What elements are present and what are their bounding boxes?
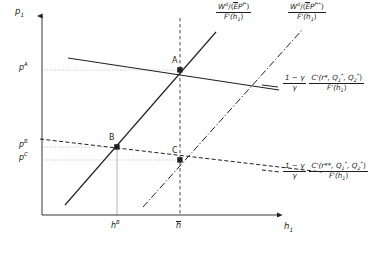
- legend-right-upper-numerator: C'(r*, Q1*, Q2*): [309, 74, 364, 83]
- curve-supply-solid-upward: [65, 32, 216, 205]
- legend-right-upper-prefactor: 1 − γ γ: [283, 74, 306, 93]
- y-tick-pA: pA: [19, 64, 28, 72]
- y-tick-pC: pC: [19, 154, 28, 162]
- leader-upper-cost: [262, 85, 278, 87]
- legend-right-lower-fraction: C'(r**, Q1*, Q2*) F'(h1): [309, 162, 367, 181]
- curve-supply-dashdot-upward: [143, 30, 302, 207]
- x-tick-hbar: h: [176, 222, 181, 230]
- point-marker-C: [177, 157, 182, 162]
- axes: [42, 16, 278, 215]
- legend-upper-right-curve: Wd/(EPf**) F'(h1): [288, 3, 326, 22]
- legend-upper-right-numerator: Wd/(EPf**): [288, 3, 326, 12]
- point-label-C: C: [172, 147, 178, 155]
- legend-right-upper-fraction: C'(r*, Q1*, Q2*) F'(h1): [309, 74, 364, 93]
- plot-canvas: [0, 0, 379, 255]
- point-marker-B: [114, 144, 119, 149]
- legend-upper-right-denominator: F'(h1): [288, 12, 326, 22]
- legend-right-upper-cost: 1 − γ γ C'(r*, Q1*, Q2*) F'(h1): [283, 74, 364, 93]
- point-label-A: A: [172, 57, 177, 65]
- point-marker-A: [177, 67, 182, 72]
- legend-right-lower-denominator: F'(h1): [309, 171, 367, 181]
- guide-lines: [42, 70, 180, 215]
- point-label-B: B: [109, 134, 115, 142]
- legend-right-lower-cost: 1 − γ γ C'(r**, Q1*, Q2*) F'(h1): [283, 162, 368, 181]
- y-tick-pB: pB: [19, 141, 28, 149]
- legend-upper-left-curve: Wd/(EPf*) F'(h1): [216, 3, 251, 22]
- x-tick-hB: hB: [111, 222, 120, 230]
- legend-upper-left-numerator: Wd/(EPf*): [216, 3, 251, 12]
- x-axis-label: h1: [284, 222, 293, 231]
- y-axis-label: p1: [15, 7, 24, 16]
- legend-right-lower-prefactor: 1 − γ γ: [283, 162, 306, 181]
- legend-right-upper-denominator: F'(h1): [309, 83, 364, 93]
- legend-upper-left-denominator: F'(h1): [216, 12, 251, 22]
- legend-right-lower-numerator: C'(r**, Q1*, Q2*): [309, 162, 367, 171]
- economics-equilibrium-diagram: p1 h1 pA pB pC hB h A B C Wd/(EPf*) F'(h…: [0, 0, 379, 255]
- leader-lower-cost: [262, 170, 280, 172]
- curve-cost-dashed-downward: [40, 139, 322, 172]
